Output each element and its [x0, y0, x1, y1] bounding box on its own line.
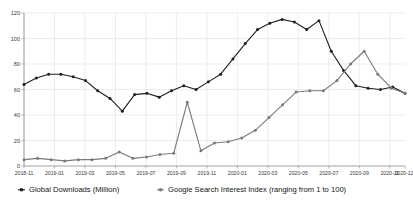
data-point-marker — [256, 28, 259, 31]
data-point-marker — [50, 158, 53, 161]
data-point-marker — [390, 87, 393, 90]
data-point-marker — [404, 92, 407, 95]
line-chart-figure: 0204060801001202018-112019-012019-032019… — [0, 0, 413, 203]
x-axis-tick-label: 2019-07 — [136, 170, 155, 176]
data-point-marker — [131, 157, 134, 160]
data-point-marker — [308, 89, 311, 92]
data-point-marker — [330, 50, 333, 53]
data-point-marker — [59, 73, 62, 76]
x-axis-tick-label: 2019-11 — [198, 170, 217, 176]
x-axis-tick-label: 2020-03 — [258, 170, 277, 176]
data-point-marker — [293, 20, 296, 23]
x-axis-tick-label: 2020-01 — [228, 170, 247, 176]
data-point-marker — [145, 92, 148, 95]
data-point-marker — [295, 91, 298, 94]
data-point-marker — [104, 157, 107, 160]
data-point-marker — [63, 159, 66, 162]
data-point-marker — [91, 158, 94, 161]
data-point-marker — [170, 89, 173, 92]
data-point-marker — [47, 73, 50, 76]
data-point-marker — [244, 42, 247, 45]
data-point-marker — [367, 87, 370, 90]
data-point-marker — [305, 28, 308, 31]
legend-marker-dot — [159, 188, 163, 192]
data-point-marker — [227, 140, 230, 143]
data-point-marker — [158, 96, 161, 99]
data-point-marker — [254, 129, 257, 132]
data-point-marker — [335, 79, 338, 82]
data-point-marker — [363, 50, 366, 53]
y-axis-tick-label: 120 — [11, 10, 20, 16]
data-point-marker — [118, 150, 121, 153]
data-point-marker — [186, 101, 189, 104]
x-axis-tick-label: 2020-05 — [289, 170, 308, 176]
data-point-marker — [349, 63, 352, 66]
y-axis-tick-label: 80 — [14, 61, 20, 67]
x-axis-tick-label: 2019-09 — [167, 170, 186, 176]
legend-item-label: Google Search Interest Index (ranging fr… — [168, 185, 347, 194]
grid-lines: 020406080100120 — [11, 10, 405, 169]
data-point-marker — [182, 84, 185, 87]
data-point-marker — [207, 80, 210, 83]
legend-marker-dot — [20, 188, 24, 192]
data-point-marker — [77, 158, 80, 161]
data-point-marker — [213, 142, 216, 145]
legend-item-search-interest[interactable]: Google Search Interest Index (ranging fr… — [157, 185, 347, 194]
y-axis-tick-label: 40 — [14, 112, 20, 118]
x-axis-ticks: 2018-112019-012019-032019-052019-072019-… — [15, 166, 413, 176]
data-point-marker — [145, 156, 148, 159]
data-point-marker — [354, 84, 357, 87]
data-point-marker — [268, 22, 271, 25]
data-point-marker — [121, 110, 124, 113]
data-point-marker — [379, 88, 382, 91]
data-point-marker — [36, 157, 39, 160]
y-axis-tick-label: 60 — [14, 87, 20, 93]
data-point-marker — [267, 116, 270, 119]
legend-item-global-downloads[interactable]: Global Downloads (Million) — [18, 185, 120, 194]
y-axis-tick-label: 20 — [14, 138, 20, 144]
data-point-marker — [199, 149, 202, 152]
legend-item-label: Global Downloads (Million) — [29, 185, 120, 194]
x-axis-tick-label: 2020-09 — [350, 170, 369, 176]
x-axis-tick-label: 2019-03 — [75, 170, 94, 176]
data-point-marker — [72, 75, 75, 78]
y-axis-tick-label: 0 — [17, 163, 20, 169]
x-axis-tick-label: 2020-12 — [394, 170, 413, 176]
data-point-marker — [23, 83, 26, 86]
data-point-marker — [376, 73, 379, 76]
x-axis-tick-label: 2019-01 — [45, 170, 64, 176]
data-point-marker — [240, 136, 243, 139]
data-point-marker — [133, 93, 136, 96]
data-point-marker — [322, 89, 325, 92]
data-point-marker — [195, 88, 198, 91]
data-point-marker — [281, 103, 284, 106]
data-point-marker — [231, 57, 234, 60]
data-point-marker — [317, 19, 320, 22]
series-search-interest — [23, 50, 407, 163]
x-axis-tick-label: 2020-07 — [319, 170, 338, 176]
data-point-marker — [159, 153, 162, 156]
y-axis-tick-label: 100 — [11, 36, 20, 42]
chart-legend: Global Downloads (Million)Google Search … — [18, 185, 347, 194]
data-point-marker — [172, 152, 175, 155]
data-point-marker — [84, 79, 87, 82]
data-point-marker — [23, 158, 26, 161]
data-point-marker — [35, 77, 38, 80]
data-point-marker — [219, 73, 222, 76]
data-point-marker — [281, 18, 284, 21]
data-point-marker — [109, 97, 112, 100]
data-point-marker — [96, 89, 99, 92]
x-axis-tick-label: 2018-11 — [15, 170, 34, 176]
series-line — [24, 19, 405, 111]
chart-canvas: 0204060801001202018-112019-012019-032019… — [0, 0, 413, 203]
x-axis-tick-label: 2019-05 — [106, 170, 125, 176]
